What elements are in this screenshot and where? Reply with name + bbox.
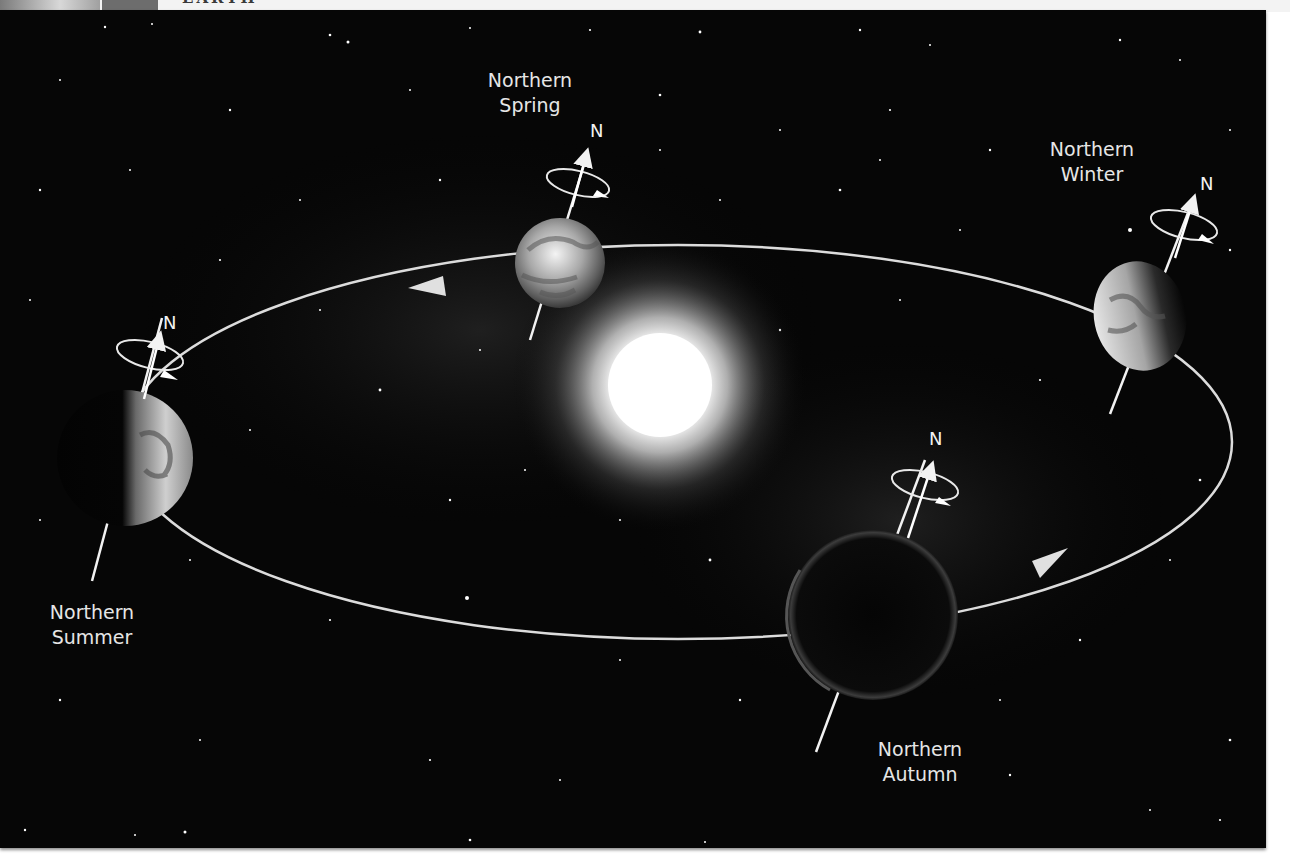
label-line: Summer — [32, 625, 152, 650]
label-line: Autumn — [860, 762, 980, 787]
label-line: Northern — [470, 68, 590, 93]
north-label: N — [1200, 173, 1213, 194]
label-line: Winter — [1032, 162, 1152, 187]
label-northern-spring: Northern Spring — [470, 68, 590, 118]
label-line: Northern — [860, 737, 980, 762]
label-line: Spring — [470, 93, 590, 118]
seasons-diagram: Northern Spring N Northern Winter N Nort… — [0, 10, 1266, 848]
label-northern-summer: Northern Summer — [32, 600, 152, 650]
header-title: EARTH — [182, 0, 258, 5]
north-label: N — [929, 428, 942, 449]
label-northern-autumn: Northern Autumn — [860, 737, 980, 787]
diagram-canvas — [0, 10, 1266, 848]
label-northern-winter: Northern Winter — [1032, 137, 1152, 187]
north-label: N — [590, 120, 603, 141]
north-label: N — [163, 312, 176, 333]
label-line: Northern — [1032, 137, 1152, 162]
label-line: Northern — [32, 600, 152, 625]
